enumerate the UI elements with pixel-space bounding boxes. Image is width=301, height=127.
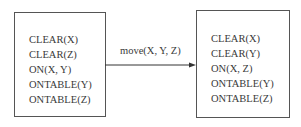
predicate: CLEAR(Y) [211, 46, 274, 61]
predicate: CLEAR(Z) [29, 47, 92, 62]
predicate: ONTABLE(Y) [29, 77, 92, 92]
predicate: ON(X, Z) [211, 61, 274, 76]
initial-state-box: CLEAR(X) CLEAR(Z) ON(X, Y) ONTABLE(Y) ON… [14, 12, 106, 117]
transition-arrow-icon [105, 60, 197, 70]
predicate: ON(X, Y) [29, 62, 92, 77]
predicate: CLEAR(X) [211, 31, 274, 46]
predicate: ONTABLE(Z) [29, 92, 92, 107]
result-state-box: CLEAR(X) CLEAR(Y) ON(X, Z) ONTABLE(Y) ON… [196, 10, 290, 118]
predicate: ONTABLE(Y) [211, 76, 274, 91]
result-state-predicates: CLEAR(X) CLEAR(Y) ON(X, Z) ONTABLE(Y) ON… [211, 31, 274, 106]
predicate: CLEAR(X) [29, 32, 92, 47]
predicate: ONTABLE(Z) [211, 91, 274, 106]
initial-state-predicates: CLEAR(X) CLEAR(Z) ON(X, Y) ONTABLE(Y) ON… [29, 32, 92, 107]
action-label: move(X, Y, Z) [120, 45, 181, 56]
